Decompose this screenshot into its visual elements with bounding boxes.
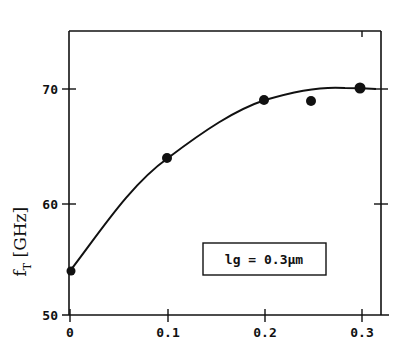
x-ticks bbox=[70, 31, 362, 322]
x-tick-label: 0.1 bbox=[156, 325, 180, 340]
chart: 70 60 50 0 0.1 0.2 0.3 lg = 0.3μm bbox=[0, 0, 406, 352]
data-point bbox=[306, 96, 316, 106]
y-ticks bbox=[62, 89, 388, 204]
y-axis-label-sub: T bbox=[21, 263, 34, 270]
data-point bbox=[67, 267, 76, 276]
y-tick-label: 50 bbox=[42, 308, 58, 323]
y-axis-label-unit: [GHz] bbox=[10, 207, 30, 258]
legend: lg = 0.3μm bbox=[203, 243, 326, 275]
legend-text: lg = 0.3μm bbox=[225, 252, 303, 267]
data-point bbox=[355, 83, 366, 94]
x-tick-label: 0.3 bbox=[350, 325, 373, 340]
y-tick-label: 70 bbox=[42, 82, 58, 97]
data-point bbox=[259, 95, 269, 105]
y-axis-label-main: f bbox=[10, 270, 30, 276]
data-point bbox=[162, 153, 172, 163]
x-tick-label: 0 bbox=[66, 325, 74, 340]
x-tick-label: 0.2 bbox=[253, 325, 276, 340]
y-axis-label: fT [GHz] bbox=[10, 192, 33, 292]
y-tick-label: 60 bbox=[42, 197, 58, 212]
